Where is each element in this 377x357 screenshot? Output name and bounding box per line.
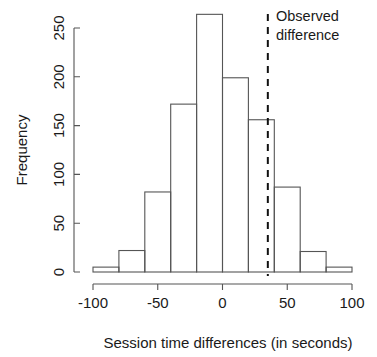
y-tick-labels: 0 50 100 150 200 250 [50,15,67,276]
x-tick-label-100: 100 [339,294,364,311]
x-tick-label-0: 0 [218,294,226,311]
x-tick-label--50: -50 [147,294,169,311]
observed-difference-label-line2: difference [276,27,339,43]
y-tick-label-250: 250 [50,15,67,40]
histogram-bar [119,251,145,272]
y-axis [74,28,80,272]
y-axis-title: Frequency [13,114,30,185]
x-axis-line [93,284,352,290]
x-tick-label-50: 50 [279,294,296,311]
observed-difference-annotation: Observed difference [276,8,339,43]
x-axis-title: Session time differences (in seconds) [103,334,352,351]
histogram-bar [93,267,119,272]
x-tick-labels: -100 -50 0 50 100 [78,294,365,311]
histogram-bar [223,78,249,272]
histogram-bar [145,192,171,272]
y-tick-label-200: 200 [50,64,67,89]
histogram-bars [93,14,352,272]
histogram-bar [197,14,223,272]
x-axis [93,284,352,290]
x-tick-label--100: -100 [78,294,108,311]
y-tick-label-0: 0 [50,268,67,276]
y-tick-label-50: 50 [50,215,67,232]
histogram-bar [300,252,326,272]
histogram-bar [274,187,300,272]
observed-difference-label-line1: Observed [276,8,339,24]
y-tick-label-150: 150 [50,113,67,138]
y-axis-line [74,28,80,272]
histogram-bar [248,120,274,272]
histogram-bar [171,104,197,272]
histogram-bar [326,267,352,272]
y-tick-label-100: 100 [50,162,67,187]
histogram-plot: 0 50 100 150 200 250 Frequency Observed … [0,0,377,357]
